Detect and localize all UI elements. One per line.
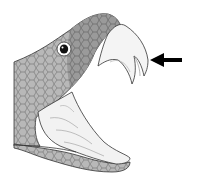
- illustration: reptile head with open beak: [0, 0, 197, 180]
- eye: [57, 42, 71, 56]
- pointer-arrow-icon: [150, 53, 182, 67]
